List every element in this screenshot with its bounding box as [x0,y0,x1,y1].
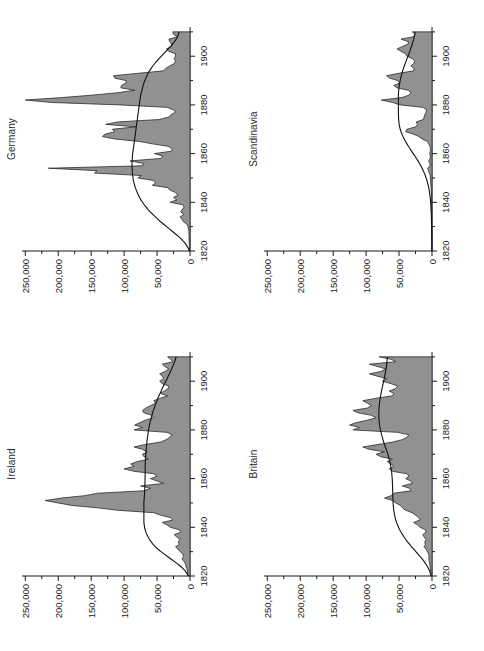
x-tick-label: 1840 [198,517,209,538]
plot-svg-britain [264,352,432,576]
chart-panel-ireland: Ireland 050,000100,000150,000200,000250,… [0,325,242,651]
x-tick-label: 1900 [440,371,451,392]
x-tick-label: 1820 [198,565,209,586]
y-tick-label: 150,000 [86,259,97,293]
x-tick-label: 1860 [198,143,209,164]
y-tick-label: 150,000 [328,584,339,618]
y-tick-label: 150,000 [86,584,97,618]
figure-root: Germany 050,000100,000150,000200,000250,… [0,0,484,651]
x-tick-label: 1840 [440,517,451,538]
y-tick-label: 0 [185,584,196,589]
plot-svg-scandinavia [264,27,432,251]
x-tick-label: 1820 [440,240,451,261]
rotated-stage-ireland: Ireland 050,000100,000150,000200,000250,… [10,338,232,638]
x-tick-label: 1820 [198,240,209,261]
x-tick-label: 1840 [440,192,451,213]
y-tick-label: 250,000 [262,259,273,293]
y-tick-label: 250,000 [20,584,31,618]
y-tick-label: 100,000 [361,259,372,293]
panel-title-scandinavia: Scandinavia [248,27,259,251]
y-tick-label: 50,000 [394,584,405,613]
x-tick-label: 1880 [198,419,209,440]
x-tick-label: 1860 [198,468,209,489]
y-tick-label: 100,000 [119,259,130,293]
y-tick-label: 50,000 [394,259,405,288]
y-tick-label: 50,000 [152,584,163,613]
y-tick-label: 200,000 [53,584,64,618]
rotated-stage-scandinavia: Scandinavia 050,000100,000150,000200,000… [252,13,474,313]
plot-area-ireland: 050,000100,000150,000200,000250,00018201… [22,352,190,576]
y-tick-label: 250,000 [262,584,273,618]
rotated-stage-britain: Britain 050,000100,000150,000200,000250,… [252,338,474,638]
x-tick-label: 1880 [440,419,451,440]
rotated-stage-germany: Germany 050,000100,000150,000200,000250,… [10,13,232,313]
panel-title-germany: Germany [6,27,17,251]
x-tick-label: 1820 [440,565,451,586]
y-tick-label: 200,000 [295,584,306,618]
x-tick-label: 1860 [440,468,451,489]
chart-panel-britain: Britain 050,000100,000150,000200,000250,… [242,325,484,651]
plot-svg-ireland [22,352,190,576]
x-tick-label: 1880 [198,94,209,115]
x-tick-label: 1840 [198,192,209,213]
y-tick-label: 200,000 [53,259,64,293]
chart-panel-scandinavia: Scandinavia 050,000100,000150,000200,000… [242,0,484,326]
x-tick-label: 1880 [440,94,451,115]
y-tick-label: 250,000 [20,259,31,293]
x-tick-label: 1900 [198,46,209,67]
series-annual-emigration [25,32,190,251]
plot-area-germany: 050,000100,000150,000200,000250,00018201… [22,27,190,251]
y-tick-label: 50,000 [152,259,163,288]
y-tick-label: 150,000 [328,259,339,293]
y-tick-label: 100,000 [119,584,130,618]
y-tick-label: 100,000 [361,584,372,618]
plot-area-scandinavia: 050,000100,000150,000200,000250,00018201… [264,27,432,251]
x-tick-label: 1860 [440,143,451,164]
panel-title-ireland: Ireland [6,352,17,576]
x-tick-label: 1900 [198,371,209,392]
series-annual-emigration [381,32,432,251]
x-tick-label: 1900 [440,46,451,67]
panel-title-britain: Britain [248,352,259,576]
series-annual-emigration [45,357,190,576]
y-tick-label: 200,000 [295,259,306,293]
y-tick-label: 0 [427,259,438,264]
y-tick-label: 0 [185,259,196,264]
plot-svg-germany [22,27,190,251]
y-tick-label: 0 [427,584,438,589]
plot-area-britain: 050,000100,000150,000200,000250,00018201… [264,352,432,576]
chart-panel-germany: Germany 050,000100,000150,000200,000250,… [0,0,242,326]
